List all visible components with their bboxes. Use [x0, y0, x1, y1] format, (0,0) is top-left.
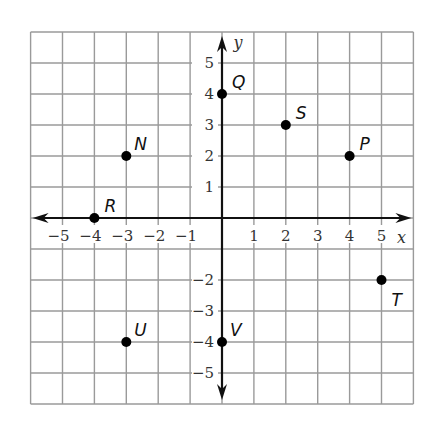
point-marker: [89, 213, 99, 223]
point-label: S: [296, 103, 307, 123]
y-axis-label: y: [232, 33, 243, 52]
y-tick-label: 4: [204, 85, 214, 103]
x-tick-label: −1: [175, 227, 197, 245]
point-label: R: [104, 196, 116, 216]
point-marker: [281, 120, 291, 130]
point-label: N: [134, 134, 147, 154]
tick-labels: −5−4−3−2−11234554321−2−3−4−5xy: [47, 33, 407, 382]
y-tick-label: 2: [204, 147, 214, 165]
y-tick-label: −2: [192, 271, 214, 289]
y-tick-label: −3: [192, 302, 214, 320]
x-tick-label: 1: [249, 227, 259, 245]
x-tick-label: −5: [47, 227, 69, 245]
x-tick-label: 2: [281, 227, 291, 245]
point-N: N: [121, 134, 147, 161]
point-marker: [345, 151, 355, 161]
y-tick-label: −5: [192, 364, 214, 382]
point-marker: [217, 89, 227, 99]
point-label: P: [360, 134, 371, 154]
x-tick-label: 3: [313, 227, 323, 245]
x-tick-label: −4: [79, 227, 101, 245]
point-label: Q: [232, 72, 245, 92]
x-tick-label: 5: [377, 227, 387, 245]
point-label: T: [392, 290, 404, 310]
coordinate-plane: −5−4−3−2−11234554321−2−3−4−5xy QSPNRTUV: [0, 0, 438, 428]
plotted-points: QSPNRTUV: [89, 72, 403, 347]
point-label: V: [230, 320, 243, 340]
point-marker: [121, 151, 131, 161]
point-P: P: [345, 134, 371, 161]
point-marker: [217, 337, 227, 347]
point-label: U: [134, 320, 147, 340]
x-tick-label: −3: [111, 227, 133, 245]
y-tick-label: 3: [204, 116, 214, 134]
y-tick-label: −4: [192, 333, 214, 351]
y-tick-label: 1: [204, 178, 214, 196]
x-axis-label: x: [397, 228, 406, 247]
point-U: U: [121, 320, 147, 347]
point-marker: [377, 275, 387, 285]
point-marker: [121, 337, 131, 347]
y-tick-label: 5: [204, 54, 214, 72]
point-S: S: [281, 103, 307, 130]
x-tick-label: −2: [143, 227, 165, 245]
x-tick-label: 4: [345, 227, 355, 245]
